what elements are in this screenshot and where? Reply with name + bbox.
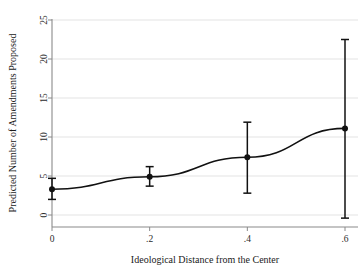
chart-figure: 0510152025 0.2.4.6 Ideological Distance …	[0, 0, 363, 273]
y-axis-title: Predicted Number of Amendments Proposed	[7, 34, 18, 213]
y-tick-label-15: 15	[39, 93, 49, 103]
data-point-.4	[244, 154, 250, 160]
x-tick-label-.6: .6	[341, 234, 348, 244]
x-tick-label-0: 0	[50, 234, 55, 244]
data-point-0	[49, 186, 55, 192]
y-tick-label-0: 0	[39, 212, 49, 217]
x-tick-label-.2: .2	[146, 234, 153, 244]
x-axis-title: Ideological Distance from the Center	[131, 254, 280, 265]
x-tick-label-.4: .4	[244, 234, 251, 244]
y-tick-label-25: 25	[39, 15, 49, 25]
y-tick-label-10: 10	[39, 132, 49, 142]
data-point-.6	[342, 125, 348, 131]
error-bar-line-chart: 0510152025 0.2.4.6 Ideological Distance …	[0, 0, 363, 273]
y-tick-label-5: 5	[39, 173, 49, 178]
y-tick-label-20: 20	[39, 54, 49, 64]
data-point-.2	[147, 174, 153, 180]
